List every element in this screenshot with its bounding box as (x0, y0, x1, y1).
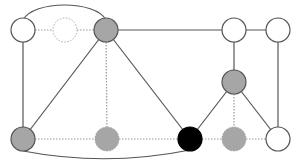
node-J (222, 127, 246, 151)
node-H (95, 127, 119, 151)
node-C (94, 18, 118, 42)
node-D (222, 18, 246, 42)
node-F (222, 70, 246, 94)
node-G (11, 127, 35, 151)
node-K (266, 127, 290, 151)
edge-C-I (106, 30, 190, 139)
node-A (11, 18, 35, 42)
node-I (178, 127, 202, 151)
edge-A-C (23, 5, 106, 20)
node-E (266, 18, 290, 42)
nodes-layer (11, 18, 290, 151)
node-B (53, 18, 77, 42)
edge-C-G (23, 30, 106, 139)
edge-C-H (106, 30, 107, 139)
graph-diagram (0, 0, 299, 164)
